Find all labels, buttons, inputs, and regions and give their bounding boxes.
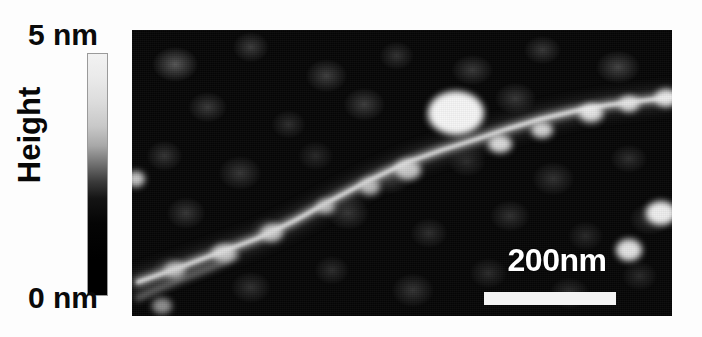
colorbar-legend: 5 nm 0 nm Height [0,0,132,337]
scale-bar-rule [484,292,616,305]
colorbar-min-label: 0 nm [28,281,128,315]
scale-bar-label: 200nm [484,242,630,278]
colorbar-max-label: 5 nm [28,18,128,52]
scale-bar: 200nm [484,242,630,310]
height-colorbar [87,53,108,296]
colorbar-axis-title: Height [12,75,48,195]
afm-image-panel: 200nm [132,30,672,316]
afm-figure: 5 nm 0 nm Height [0,0,702,337]
